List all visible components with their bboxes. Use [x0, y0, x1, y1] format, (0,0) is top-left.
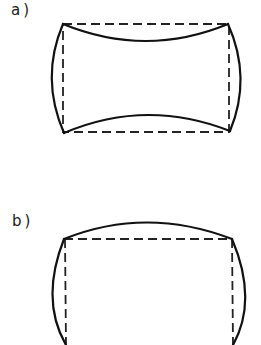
panel-b-top-curve — [64, 223, 232, 240]
panel-b-figure — [52, 223, 245, 345]
panel-b-reference-left — [65, 239, 66, 345]
panel-a-top-curve — [63, 24, 228, 41]
panel-b-right-curve — [232, 239, 245, 345]
deformation-diagram — [0, 0, 261, 345]
panel-a-bottom-curve — [64, 115, 230, 133]
panel-b-left-curve — [52, 239, 66, 345]
panel-a-figure — [52, 24, 241, 133]
panel-b-reference-right — [232, 239, 233, 345]
